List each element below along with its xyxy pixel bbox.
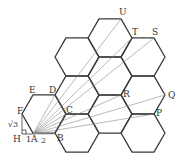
hexagon (55, 76, 99, 114)
hexagon (88, 95, 132, 133)
hexagon (121, 38, 165, 76)
label-D: D (49, 85, 56, 95)
ray-A-U (33, 19, 121, 134)
label-two: 2 (41, 136, 46, 145)
label-B: B (57, 133, 64, 143)
label-F: F (17, 106, 23, 116)
label-S: S (152, 27, 158, 37)
label-E: E (29, 85, 36, 95)
label-one: 1 (26, 135, 31, 144)
label-A: A (30, 134, 38, 144)
label-Q: Q (168, 90, 175, 100)
label-T: T (132, 27, 138, 37)
hexagon-tiling-diagram: ABCDEFPQRSTU H √3 1 2 (0, 0, 180, 159)
ray-A-P (33, 114, 154, 134)
ray-A-D (33, 95, 55, 134)
label-P: P (156, 108, 162, 118)
label-H: H (13, 134, 21, 144)
hexagon (55, 38, 99, 76)
label-sqrt3: √3 (8, 120, 18, 129)
hexagon (121, 114, 165, 152)
label-U: U (119, 7, 127, 17)
hexagon (88, 19, 132, 57)
label-C: C (66, 105, 73, 115)
right-angle-mark (22, 130, 26, 134)
ray-A-R (33, 95, 121, 134)
label-R: R (123, 89, 130, 99)
